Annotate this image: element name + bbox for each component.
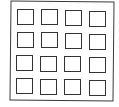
grid-square <box>17 9 34 25</box>
grid-square <box>40 56 57 72</box>
grid-square <box>89 34 106 50</box>
grid-square <box>41 32 58 48</box>
grid-square <box>89 11 106 27</box>
grid-square <box>16 78 33 94</box>
grid-square <box>40 79 57 95</box>
grid-square <box>17 32 34 48</box>
grid-square <box>65 33 82 49</box>
grid-square <box>16 55 33 71</box>
grid-square <box>89 80 106 96</box>
grid-square <box>89 57 106 73</box>
grid-square <box>64 56 81 72</box>
grid-square <box>65 10 82 26</box>
grid-square <box>64 79 81 95</box>
grid-square <box>41 9 58 25</box>
